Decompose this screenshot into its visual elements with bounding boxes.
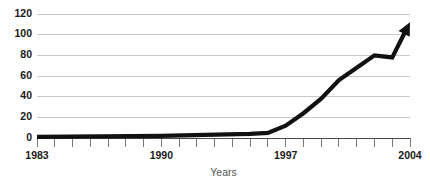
y-tick-label: 100: [14, 27, 32, 39]
x-tick-label: 2004: [398, 149, 422, 161]
line-chart: 020406080100120 1983199019972004 Years: [0, 0, 430, 189]
y-tick-label: 0: [26, 131, 32, 143]
x-tick-label: 1983: [25, 149, 49, 161]
x-tick-marks-group: [37, 138, 410, 147]
x-tick-label: 1990: [150, 149, 174, 161]
y-tick-label: 80: [20, 48, 32, 60]
x-axis-title: Years: [210, 166, 236, 178]
data-series-line: [37, 31, 405, 137]
x-tick-labels-group: 1983199019972004: [25, 149, 422, 161]
y-tick-labels-group: 020406080100120: [14, 7, 32, 143]
y-tick-label: 40: [20, 89, 32, 101]
y-tick-label: 60: [20, 69, 32, 81]
y-tick-label: 20: [20, 110, 32, 122]
gridlines-group: [37, 14, 410, 117]
y-tick-label: 120: [14, 7, 32, 19]
x-tick-label: 1997: [274, 149, 298, 161]
chart-container: 020406080100120 1983199019972004 Years: [0, 0, 430, 189]
